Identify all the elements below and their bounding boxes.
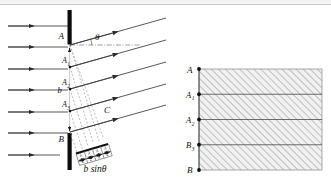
label-zone-a3: A 3 <box>61 100 70 111</box>
outgoing-ray-arrow <box>70 98 118 112</box>
segment-label-denominator: 2 <box>105 151 109 157</box>
wavefront-line <box>70 111 83 151</box>
right-diagram-group: A A 1 A 2 B 3 B <box>185 65 322 176</box>
zone-dot <box>197 118 201 122</box>
outgoing-ray-arrow <box>70 119 118 133</box>
wavefront-line <box>70 89 88 146</box>
right-label-a: A <box>186 65 193 75</box>
label-zone-a3-sub: 3 <box>66 105 70 111</box>
segment-label-numerator: λ <box>103 145 108 151</box>
segment-label-denominator: 2 <box>97 154 101 160</box>
label-barrier-a: A <box>58 31 65 41</box>
svg-text:A: A <box>61 100 67 109</box>
left-diagram-group: λ 2 λ 2 λ 2 λ 2 A B b <box>8 10 166 174</box>
zone-dot <box>197 143 201 147</box>
zone-dot <box>197 67 201 71</box>
label-path-difference: b sinθ <box>84 164 107 174</box>
barrier-bottom <box>68 133 72 170</box>
theta-angle-arc <box>91 39 93 45</box>
right-label-a3: B 3 <box>186 140 195 152</box>
label-zone-a1: A 1 <box>61 56 70 67</box>
wavefront-line <box>70 45 99 141</box>
label-barrier-b: B <box>59 134 65 144</box>
label-theta: θ <box>95 32 100 42</box>
right-label-a2-sub: 2 <box>192 121 195 127</box>
segment-box-right <box>109 144 113 156</box>
segment-label-numerator: λ <box>78 152 83 158</box>
barrier-top <box>68 10 72 45</box>
zone-dot <box>197 168 201 172</box>
figure-canvas: λ 2 λ 2 λ 2 λ 2 A B b <box>0 0 331 178</box>
svg-text:A: A <box>61 78 67 87</box>
svg-text:B: B <box>186 140 191 150</box>
right-label-a1-sub: 1 <box>192 95 195 101</box>
physics-figure: λ 2 λ 2 λ 2 λ 2 A B b <box>0 0 331 178</box>
label-zone-a1-sub: 1 <box>67 61 70 67</box>
right-label-a1: A 1 <box>185 90 195 102</box>
outgoing-ray-arrow <box>70 32 118 46</box>
label-point-c: C <box>104 105 111 115</box>
svg-text:A: A <box>61 56 67 65</box>
right-label-b: B <box>187 165 193 175</box>
outgoing-ray-arrow <box>70 76 118 90</box>
outgoing-ray-arrow <box>70 54 118 68</box>
right-label-a2: A 2 <box>185 115 195 127</box>
segment-label-numerator: λ <box>95 148 100 154</box>
label-zone-a2: A 2 <box>61 78 70 89</box>
zone-dot <box>197 92 201 96</box>
label-zone-a2-sub: 2 <box>67 83 70 89</box>
right-label-a3-sub: 3 <box>191 146 195 152</box>
segment-label-numerator: λ <box>86 150 91 156</box>
wavefront-lines <box>70 45 99 155</box>
segment-label-denominator: 2 <box>89 156 93 162</box>
